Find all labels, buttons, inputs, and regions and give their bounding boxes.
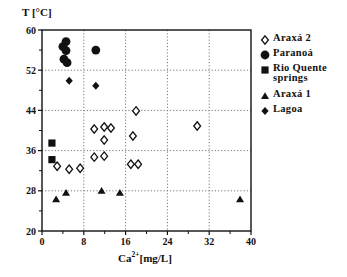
x-tick-label: 8 bbox=[81, 236, 86, 247]
y-tick-label: 52 bbox=[26, 65, 36, 76]
grid-lines bbox=[42, 30, 251, 231]
y-tick-label: 36 bbox=[26, 145, 36, 156]
filled-diamond-icon bbox=[257, 104, 273, 116]
filled-triangle-icon bbox=[257, 89, 273, 101]
data-point bbox=[66, 165, 73, 173]
x-tick-label: 24 bbox=[162, 236, 172, 247]
x-tick-label: 16 bbox=[121, 236, 131, 247]
x-tick-label: 0 bbox=[40, 236, 45, 247]
x-tick-label: 32 bbox=[204, 236, 214, 247]
data-point bbox=[116, 189, 124, 196]
plot-border bbox=[42, 30, 251, 231]
data-point bbox=[127, 160, 134, 168]
data-point bbox=[52, 196, 60, 203]
data-point bbox=[66, 77, 73, 85]
open-diamond-icon bbox=[257, 33, 273, 45]
legend-item: Lagoa bbox=[257, 104, 347, 119]
open-diamond-glyph bbox=[262, 36, 269, 44]
y-tick-label: 60 bbox=[26, 25, 36, 36]
data-point bbox=[130, 132, 137, 140]
filled-circle-glyph bbox=[261, 51, 270, 60]
legend-item: Rio Quente springs bbox=[257, 63, 347, 89]
filled-square-icon bbox=[257, 63, 273, 75]
series-rio-quente-springs bbox=[48, 139, 55, 163]
data-point bbox=[63, 58, 72, 67]
data-point bbox=[194, 122, 201, 130]
data-point bbox=[91, 46, 100, 55]
legend-label: Paranoá bbox=[273, 48, 313, 58]
data-points bbox=[48, 37, 244, 202]
legend-item: Paranoá bbox=[257, 48, 347, 63]
data-point bbox=[135, 160, 142, 168]
data-point bbox=[77, 164, 84, 172]
data-point bbox=[91, 153, 98, 161]
filled-triangle-glyph bbox=[261, 92, 269, 99]
data-point bbox=[101, 152, 108, 160]
series-arax-1 bbox=[52, 187, 244, 202]
data-point bbox=[98, 187, 106, 194]
data-point bbox=[62, 189, 70, 196]
x-tick-label: 40 bbox=[246, 236, 256, 247]
data-point bbox=[133, 107, 140, 115]
data-point bbox=[101, 123, 108, 131]
legend-label: Araxá 2 bbox=[273, 33, 311, 43]
y-tick-label: 28 bbox=[26, 185, 36, 196]
legend-label: Lagoa bbox=[273, 104, 303, 114]
filled-circle-icon bbox=[257, 48, 273, 60]
series-lagoa bbox=[66, 77, 100, 90]
filled-diamond-glyph bbox=[261, 107, 268, 115]
series-arax-2 bbox=[54, 107, 201, 174]
filled-square-glyph bbox=[261, 66, 268, 73]
y-axis-title: T [°C] bbox=[22, 6, 52, 18]
legend-item: Araxá 1 bbox=[257, 89, 347, 104]
legend-label: Rio Quente springs bbox=[273, 63, 327, 83]
data-point bbox=[62, 46, 71, 55]
data-point bbox=[92, 82, 99, 90]
legend-item: Araxá 2 bbox=[257, 33, 347, 48]
data-point bbox=[48, 139, 55, 146]
series-parano- bbox=[59, 37, 101, 67]
legend-label: Araxá 1 bbox=[273, 89, 311, 99]
x-axis-title: Ca2+[mg/L] bbox=[118, 250, 172, 264]
y-tick-label: 20 bbox=[26, 226, 36, 237]
data-point bbox=[108, 124, 115, 132]
plot-frame bbox=[42, 30, 251, 231]
y-tick-label: 44 bbox=[26, 105, 36, 116]
legend: Araxá 2ParanoáRio Quente springsAraxá 1L… bbox=[257, 33, 347, 119]
data-point bbox=[236, 196, 244, 203]
data-point bbox=[101, 136, 108, 144]
data-point bbox=[91, 125, 98, 133]
data-point bbox=[48, 156, 55, 163]
